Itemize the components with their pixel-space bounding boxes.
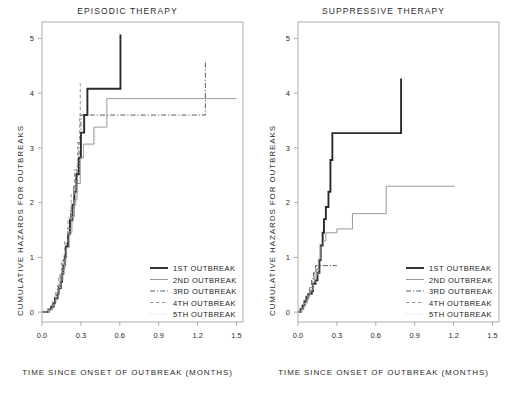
x-axis-ticks-suppressive: 0.00.30.60.91.21.5 xyxy=(293,322,498,340)
y-axis-label: CUMULATIVE HAZARDS FOR OUTBREAKS xyxy=(16,125,25,316)
plot-area-suppressive: 012345 0.00.30.60.91.21.5 1ST OUTBREAK2N… xyxy=(256,0,511,398)
legend-label: 3RD OUTBREAK xyxy=(173,287,237,296)
series-line-dotted xyxy=(42,126,107,312)
legend-label: 5TH OUTBREAK xyxy=(429,310,492,319)
y-axis-ticks-episodic: 012345 xyxy=(30,34,42,317)
series-line-dashdot xyxy=(42,60,205,312)
svg-text:0.6: 0.6 xyxy=(115,331,125,340)
svg-text:0.3: 0.3 xyxy=(332,331,342,340)
panel-episodic-therapy: EPISODIC THERAPY 012345 0.00.30.60.91.21… xyxy=(0,0,255,398)
svg-text:0: 0 xyxy=(286,308,290,317)
svg-text:0.6: 0.6 xyxy=(371,331,381,340)
svg-text:0.9: 0.9 xyxy=(409,331,419,340)
svg-text:1.5: 1.5 xyxy=(231,331,241,340)
plot-area-episodic: 012345 0.00.30.60.91.21.5 1ST OUTBREAK2N… xyxy=(0,0,255,398)
svg-text:1.5: 1.5 xyxy=(487,331,497,340)
series-line-solid-thick xyxy=(298,78,401,312)
legend-label: 3RD OUTBREAK xyxy=(429,287,493,296)
legend-episodic: 1ST OUTBREAK2ND OUTBREAK3RD OUTBREAK4TH … xyxy=(150,264,237,319)
svg-text:5: 5 xyxy=(30,34,34,43)
series-line-dotted xyxy=(298,267,319,312)
svg-text:3: 3 xyxy=(30,144,34,153)
legend-label: 4TH OUTBREAK xyxy=(173,299,236,308)
svg-text:1: 1 xyxy=(30,253,34,262)
svg-text:3: 3 xyxy=(286,144,290,153)
svg-text:4: 4 xyxy=(30,89,34,98)
svg-text:1: 1 xyxy=(286,253,290,262)
legend-suppressive: 1ST OUTBREAK2ND OUTBREAK3RD OUTBREAK4TH … xyxy=(406,264,493,319)
svg-text:1.2: 1.2 xyxy=(448,331,458,340)
svg-text:2: 2 xyxy=(30,198,34,207)
panel-suppressive-therapy: SUPPRESSIVE THERAPY 012345 0.00.30.60.91… xyxy=(256,0,511,398)
svg-text:0.9: 0.9 xyxy=(153,331,163,340)
svg-text:0.0: 0.0 xyxy=(37,331,47,340)
svg-text:1.2: 1.2 xyxy=(192,331,202,340)
series-line-solid-thick xyxy=(42,35,120,313)
legend-label: 1ST OUTBREAK xyxy=(173,264,235,273)
x-axis-label: TIME SINCE ONSET OF OUTBREAK (MONTHS) xyxy=(256,368,511,377)
legend-label: 5TH OUTBREAK xyxy=(173,310,236,319)
svg-text:0.3: 0.3 xyxy=(76,331,86,340)
legend-label: 1ST OUTBREAK xyxy=(429,264,491,273)
legend-label: 2ND OUTBREAK xyxy=(429,276,493,285)
svg-text:0.0: 0.0 xyxy=(293,331,303,340)
legend-label: 4TH OUTBREAK xyxy=(429,299,492,308)
y-axis-ticks-suppressive: 012345 xyxy=(286,34,298,317)
x-axis-ticks-episodic: 0.00.30.60.91.21.5 xyxy=(37,322,242,340)
svg-text:4: 4 xyxy=(286,89,290,98)
legend-label: 2ND OUTBREAK xyxy=(173,276,237,285)
svg-text:5: 5 xyxy=(286,34,290,43)
figure-root: EPISODIC THERAPY 012345 0.00.30.60.91.21… xyxy=(0,0,511,398)
x-axis-label: TIME SINCE ONSET OF OUTBREAK (MONTHS) xyxy=(0,368,255,377)
y-axis-label: CUMULATIVE HAZARDS FOR OUTBREAKS xyxy=(268,125,277,316)
svg-text:2: 2 xyxy=(286,198,290,207)
svg-text:0: 0 xyxy=(30,308,34,317)
series-line-dashed xyxy=(298,266,317,312)
